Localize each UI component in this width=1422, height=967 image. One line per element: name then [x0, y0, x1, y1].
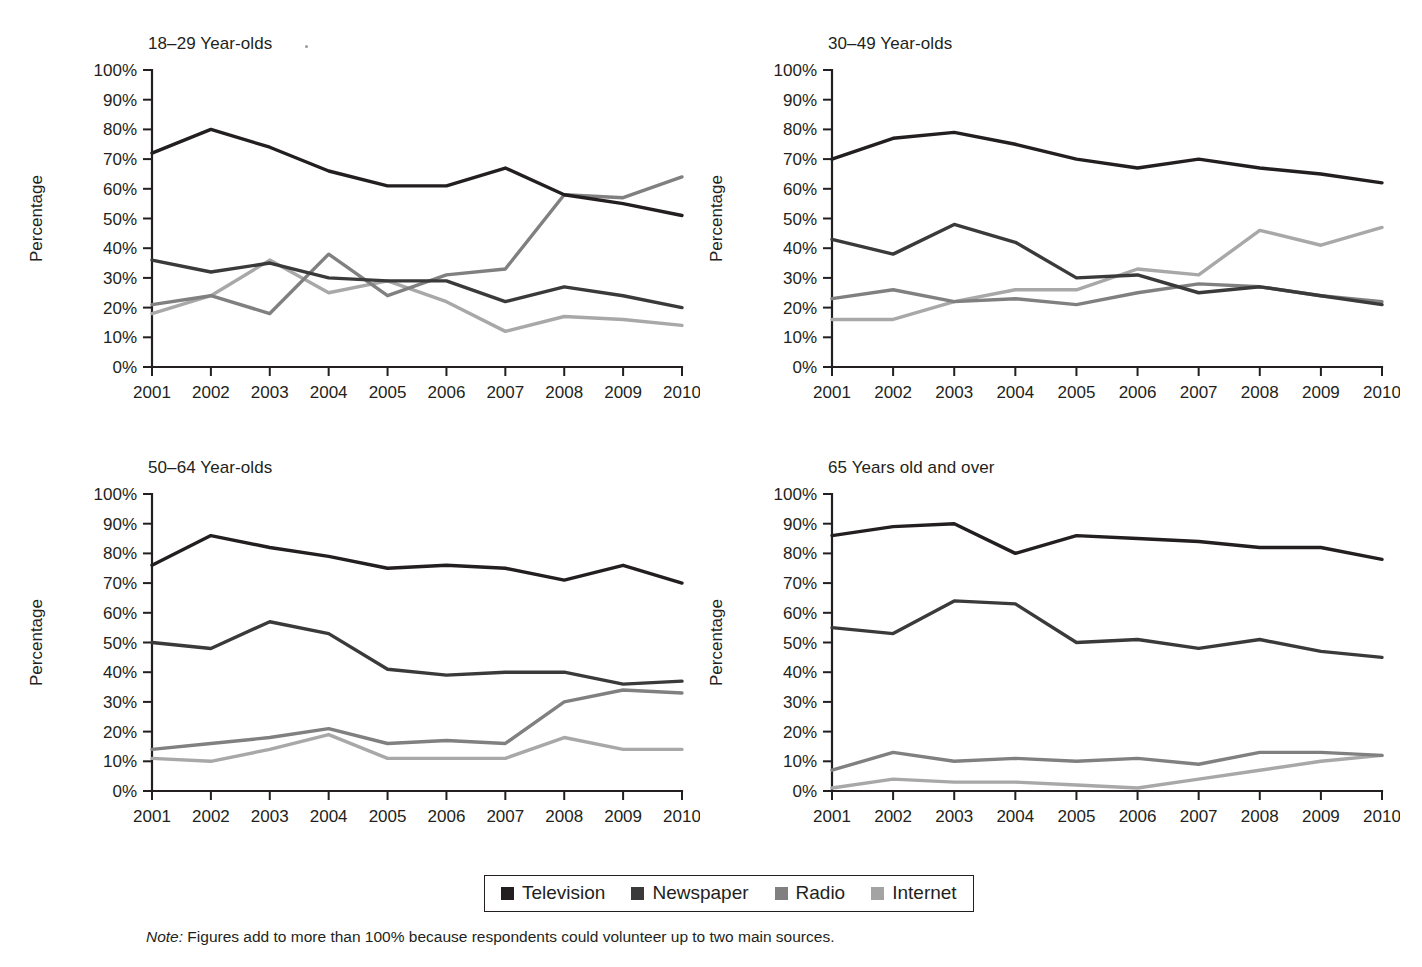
y-tick-label: 50%: [783, 634, 817, 653]
legend-label-television: Television: [522, 882, 605, 904]
y-tick-label: 30%: [783, 269, 817, 288]
x-tick-label: 2007: [486, 383, 524, 402]
series-line-radio: [152, 690, 682, 749]
x-tick-label: 2001: [813, 383, 851, 402]
y-tick-label: 0%: [792, 358, 817, 377]
y-tick-label: 30%: [103, 693, 137, 712]
x-tick-label: 2010: [1363, 383, 1400, 402]
chart-svg: Percentage0%10%20%30%40%50%60%70%80%90%1…: [20, 478, 700, 843]
chart-panel-18-29: 18–29 Year-olds Percentage0%10%20%30%40%…: [20, 34, 700, 424]
y-tick-label: 100%: [774, 485, 817, 504]
x-tick-label: 2007: [486, 807, 524, 826]
chart-svg: Percentage0%10%20%30%40%50%60%70%80%90%1…: [20, 54, 700, 419]
panel-title: 65 Years old and over: [828, 458, 1400, 478]
legend-item-newspaper: Newspaper: [631, 882, 748, 904]
y-tick-label: 80%: [103, 544, 137, 563]
y-tick-label: 50%: [103, 210, 137, 229]
x-tick-label: 2003: [935, 807, 973, 826]
y-tick-label: 0%: [112, 782, 137, 801]
legend-swatch-television: [501, 887, 514, 900]
chart-panel-30-49: 30–49 Year-olds Percentage0%10%20%30%40%…: [700, 34, 1400, 424]
y-tick-label: 20%: [783, 299, 817, 318]
x-tick-label: 2009: [604, 383, 642, 402]
y-tick-label: 40%: [103, 663, 137, 682]
x-tick-label: 2008: [1241, 383, 1279, 402]
x-tick-label: 2005: [369, 807, 407, 826]
y-tick-label: 50%: [783, 210, 817, 229]
legend-item-internet: Internet: [871, 882, 956, 904]
figure-note: Note: Figures add to more than 100% beca…: [146, 928, 834, 946]
y-tick-label: 40%: [103, 239, 137, 258]
y-tick-label: 60%: [103, 604, 137, 623]
y-tick-label: 30%: [103, 269, 137, 288]
y-tick-label: 10%: [783, 752, 817, 771]
chart-panel-50-64: 50–64 Year-olds Percentage0%10%20%30%40%…: [20, 458, 700, 848]
y-tick-label: 10%: [103, 752, 137, 771]
legend-item-radio: Radio: [775, 882, 846, 904]
y-tick-label: 80%: [783, 120, 817, 139]
note-text: Figures add to more than 100% because re…: [183, 928, 834, 945]
x-tick-label: 2008: [545, 807, 583, 826]
note-prefix: Note:: [146, 928, 183, 945]
x-tick-label: 2009: [1302, 383, 1340, 402]
x-tick-label: 2005: [1058, 807, 1096, 826]
y-tick-label: 20%: [103, 723, 137, 742]
x-tick-label: 2010: [663, 807, 700, 826]
y-tick-label: 50%: [103, 634, 137, 653]
x-tick-label: 2004: [996, 383, 1034, 402]
x-tick-label: 2010: [663, 383, 700, 402]
x-tick-label: 2008: [1241, 807, 1279, 826]
y-tick-label: 40%: [783, 239, 817, 258]
y-tick-label: 70%: [783, 150, 817, 169]
y-tick-label: 90%: [103, 91, 137, 110]
x-tick-label: 2001: [133, 383, 171, 402]
axis-lines: [152, 70, 682, 367]
x-tick-label: 2001: [133, 807, 171, 826]
x-tick-label: 2009: [604, 807, 642, 826]
x-tick-label: 2006: [1119, 807, 1157, 826]
x-tick-label: 2006: [428, 383, 466, 402]
x-tick-label: 2006: [1119, 383, 1157, 402]
y-tick-label: 70%: [103, 150, 137, 169]
y-tick-label: 20%: [103, 299, 137, 318]
y-tick-label: 10%: [783, 328, 817, 347]
x-tick-label: 2001: [813, 807, 851, 826]
legend-swatch-newspaper: [631, 887, 644, 900]
y-tick-label: 0%: [112, 358, 137, 377]
figure-root: 18–29 Year-olds Percentage0%10%20%30%40%…: [0, 0, 1422, 967]
series-line-newspaper: [832, 601, 1382, 657]
y-tick-label: 60%: [783, 604, 817, 623]
x-tick-label: 2006: [428, 807, 466, 826]
series-line-television: [832, 524, 1382, 560]
x-tick-label: 2007: [1180, 383, 1218, 402]
y-tick-label: 60%: [783, 180, 817, 199]
series-line-internet: [152, 735, 682, 762]
y-tick-label: 80%: [103, 120, 137, 139]
x-tick-label: 2004: [996, 807, 1034, 826]
chart-legend: Television Newspaper Radio Internet: [484, 875, 974, 912]
y-tick-label: 0%: [792, 782, 817, 801]
legend-swatch-radio: [775, 887, 788, 900]
y-tick-label: 60%: [103, 180, 137, 199]
legend-label-newspaper: Newspaper: [652, 882, 748, 904]
panel-title: 30–49 Year-olds: [828, 34, 1400, 54]
x-tick-label: 2003: [251, 383, 289, 402]
series-line-newspaper: [152, 622, 682, 684]
chart-panel-65-over: 65 Years old and over Percentage0%10%20%…: [700, 458, 1400, 848]
y-axis-title: Percentage: [27, 599, 46, 686]
legend-label-internet: Internet: [892, 882, 956, 904]
legend-label-radio: Radio: [796, 882, 846, 904]
series-line-radio: [832, 752, 1382, 770]
x-tick-label: 2009: [1302, 807, 1340, 826]
series-line-internet: [152, 260, 682, 331]
y-tick-label: 10%: [103, 328, 137, 347]
y-tick-label: 100%: [94, 61, 137, 80]
y-tick-label: 70%: [103, 574, 137, 593]
legend-item-television: Television: [501, 882, 605, 904]
x-tick-label: 2002: [192, 807, 230, 826]
x-tick-label: 2008: [545, 383, 583, 402]
x-tick-label: 2002: [874, 807, 912, 826]
y-tick-label: 30%: [783, 693, 817, 712]
panel-title: 18–29 Year-olds: [148, 34, 700, 54]
x-tick-label: 2004: [310, 383, 348, 402]
